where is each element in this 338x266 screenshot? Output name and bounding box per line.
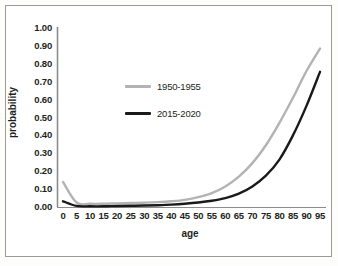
legend-entry-1950-1955: 1950-1955 bbox=[125, 81, 201, 92]
x-tick-label: 95 bbox=[310, 210, 330, 221]
y-tick-label: 0.50 bbox=[22, 112, 52, 123]
y-tick-label: 0.30 bbox=[22, 147, 52, 158]
chart-figure: 0.000.100.200.300.400.500.600.700.800.90… bbox=[0, 0, 338, 266]
legend-swatch-2015-2020 bbox=[125, 112, 151, 116]
y-tick-label: 0.20 bbox=[22, 165, 52, 176]
legend-label-1950-1955: 1950-1955 bbox=[157, 81, 201, 92]
y-tick-label: 0.60 bbox=[22, 94, 52, 105]
legend-swatch-1950-1955 bbox=[125, 85, 151, 88]
y-axis-title: probability bbox=[7, 73, 18, 153]
legend-entry-2015-2020: 2015-2020 bbox=[125, 108, 201, 119]
y-tick-label: 0.00 bbox=[22, 201, 52, 212]
y-tick-label: 0.80 bbox=[22, 58, 52, 69]
x-axis-title: age bbox=[130, 228, 250, 239]
y-tick-label: 0.40 bbox=[22, 129, 52, 140]
y-tick-label: 0.10 bbox=[22, 183, 52, 194]
series-line-2015-2020 bbox=[63, 72, 320, 207]
y-tick-label: 0.90 bbox=[22, 40, 52, 51]
y-tick-label: 1.00 bbox=[22, 22, 52, 33]
series-line-1950-1955 bbox=[63, 49, 320, 205]
series-lines bbox=[63, 49, 320, 207]
legend-label-2015-2020: 2015-2020 bbox=[157, 108, 201, 119]
y-tick-label: 0.70 bbox=[22, 76, 52, 87]
